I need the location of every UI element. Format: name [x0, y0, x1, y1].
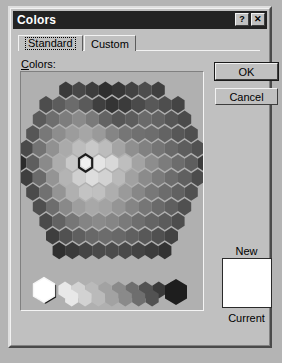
tab-strip: Standard Custom	[18, 35, 260, 51]
tab-standard[interactable]: Standard	[18, 35, 83, 51]
colors-dialog: Colors ? ✕ Standard Custom Colors: OK Ca…	[8, 6, 272, 348]
colors-label: Colors:	[21, 58, 56, 70]
tab-standard-label: Standard	[25, 37, 76, 50]
close-button[interactable]: ✕	[251, 13, 265, 26]
color-honeycomb-svg[interactable]	[21, 72, 203, 310]
new-color-label: New	[215, 245, 278, 257]
help-button[interactable]: ?	[235, 13, 249, 26]
colors-label-rest: olors:	[29, 58, 56, 70]
current-color-label: Current	[215, 312, 278, 324]
color-honeycomb-panel[interactable]	[20, 71, 204, 311]
title-bar[interactable]: Colors ? ✕	[13, 11, 267, 29]
screen-background: Colors ? ✕ Standard Custom Colors: OK Ca…	[0, 0, 282, 363]
selected-gray-hexagon[interactable]	[34, 278, 55, 303]
titlebar-button-group: ? ✕	[235, 13, 265, 26]
dialog-title: Colors	[17, 13, 56, 27]
tab-custom-label: Custom	[91, 38, 129, 50]
tab-custom[interactable]: Custom	[84, 35, 136, 51]
cancel-button[interactable]: Cancel	[215, 88, 278, 105]
ok-button[interactable]: OK	[215, 63, 278, 80]
color-preview-swatch	[222, 258, 272, 308]
colors-label-accel: C	[21, 58, 29, 70]
